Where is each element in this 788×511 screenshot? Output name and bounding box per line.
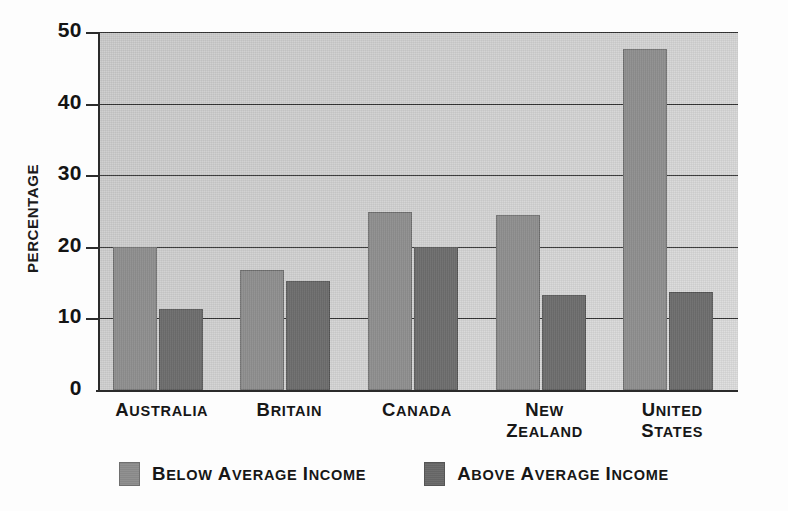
y-tick-40 (86, 104, 98, 106)
bar-chart-figure: PERCENTAGE 01020304050 AUSTRALIABRITAINC… (0, 0, 788, 511)
legend-item-below-average-income[interactable]: BELOW AVERAGE INCOME (119, 462, 366, 486)
y-tick-50 (86, 32, 98, 34)
legend-item-above-average-income[interactable]: ABOVE AVERAGE INCOME (424, 462, 669, 486)
bar-australia-above-average-income (159, 309, 203, 390)
y-tick-label: 10 (36, 304, 82, 328)
y-tick-30 (86, 175, 98, 177)
legend-swatch-icon (424, 462, 445, 486)
bar-canada-below-average-income (368, 212, 412, 390)
bar-new-zealand-below-average-income (496, 215, 540, 390)
chart-legend: BELOW AVERAGE INCOMEABOVE AVERAGE INCOME (0, 462, 788, 486)
x-axis-label-line: STATES (594, 421, 750, 442)
y-tick-label: 0 (36, 376, 82, 400)
legend-swatch-icon (119, 462, 140, 486)
bar-canada-above-average-income (414, 247, 458, 390)
y-tick-label: 30 (36, 161, 82, 185)
y-axis-title: PERCENTAGE (24, 109, 41, 329)
bar-australia-below-average-income (113, 247, 157, 390)
bar-britain-below-average-income (240, 270, 284, 390)
x-axis-label-line: UNITED (594, 400, 750, 421)
legend-label: ABOVE AVERAGE INCOME (457, 463, 669, 485)
x-axis-label-united-states: UNITEDSTATES (594, 400, 750, 442)
bar-united-states-below-average-income (623, 49, 667, 390)
bar-new-zealand-above-average-income (542, 295, 586, 390)
bar-britain-above-average-income (286, 281, 330, 390)
y-tick-10 (86, 318, 98, 320)
plot-area (98, 32, 738, 390)
gridline-50 (100, 32, 738, 33)
bar-united-states-above-average-income (669, 292, 713, 390)
legend-label: BELOW AVERAGE INCOME (152, 463, 366, 485)
y-tick-label: 50 (36, 18, 82, 42)
y-tick-20 (86, 247, 98, 249)
y-tick-label: 40 (36, 90, 82, 114)
x-axis-line (96, 390, 738, 392)
y-tick-label: 20 (36, 233, 82, 257)
